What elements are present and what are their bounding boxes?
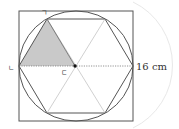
geometry-diagram: ㄱ ㄴ ㄷ 16 cm bbox=[0, 0, 179, 129]
center-point bbox=[73, 64, 76, 67]
label-vertex-left: ㄴ bbox=[8, 64, 14, 72]
label-measurement: 16 cm bbox=[136, 61, 168, 72]
label-center: ㄷ bbox=[61, 69, 67, 77]
shaded-triangle bbox=[19, 19, 75, 66]
label-vertex-top: ㄱ bbox=[41, 9, 47, 17]
